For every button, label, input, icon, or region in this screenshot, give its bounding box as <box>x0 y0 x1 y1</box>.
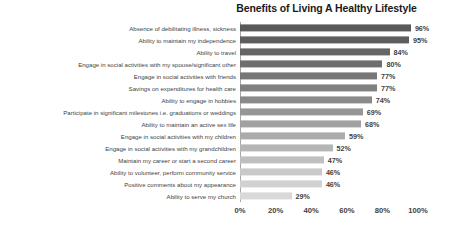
bar-row: Engage in social activities with friends… <box>0 70 458 82</box>
category-label: Positive comments about my appearance <box>124 180 236 187</box>
bar-row: Ability to volunteer, perform community … <box>0 166 458 178</box>
bar-value-label: 29% <box>296 191 310 200</box>
bar-value-label: 69% <box>367 107 381 116</box>
bar <box>240 144 333 151</box>
bar-value-label: 77% <box>381 83 395 92</box>
category-label: Engage in social activities with friends <box>134 72 236 79</box>
category-label: Engage in social activities with my gran… <box>105 144 236 151</box>
bar-value-label: 74% <box>376 95 390 104</box>
plot-area: Absence of debilitating illness, sicknes… <box>0 22 458 202</box>
bar-row: Savings on expenditures for health care7… <box>0 82 458 94</box>
bar-row: Ability to engage in hobbies74% <box>0 94 458 106</box>
bar <box>240 132 345 139</box>
bar-value-label: 59% <box>349 131 363 140</box>
bar-row: Positive comments about my appearance46% <box>0 178 458 190</box>
bar <box>240 48 390 55</box>
bar-row: Ability to maintain my independence95% <box>0 34 458 46</box>
bar <box>240 156 324 163</box>
x-axis: 0%20%40%60%80%100% <box>0 202 458 224</box>
x-axis-tick-label: 100% <box>408 206 427 215</box>
x-axis-tick-label: 40% <box>304 206 319 215</box>
bar-value-label: 46% <box>326 167 340 176</box>
category-label: Maintain my career or start a second car… <box>118 156 236 163</box>
bar-row: Maintain my career or start a second car… <box>0 154 458 166</box>
bar-row: Ability to travel84% <box>0 46 458 58</box>
bar <box>240 84 377 91</box>
bar <box>240 108 363 115</box>
category-label: Ability to maintain an active sex life <box>142 120 237 127</box>
category-label: Participate in significant milestones i.… <box>63 108 236 115</box>
bar-value-label: 77% <box>381 71 395 80</box>
category-label: Ability to volunteer, perform community … <box>110 168 236 175</box>
bar-row: Engage in social activities with my gran… <box>0 142 458 154</box>
chart-title: Benefits of Living A Healthy Lifestyle <box>195 2 458 14</box>
bar <box>240 180 322 187</box>
bar <box>240 96 372 103</box>
bar <box>240 120 361 127</box>
category-label: Engage in social activities with my spou… <box>78 60 236 67</box>
bar-row: Participate in significant milestones i.… <box>0 106 458 118</box>
bar-value-label: 95% <box>413 35 427 44</box>
bar <box>240 168 322 175</box>
x-axis-tick-label: 0% <box>235 206 246 215</box>
x-axis-tick-label: 80% <box>375 206 390 215</box>
bar <box>240 24 411 31</box>
bar-row: Ability to maintain an active sex life68… <box>0 118 458 130</box>
category-label: Ability to maintain my independence <box>138 36 236 43</box>
bar-chart: Benefits of Living A Healthy Lifestyle A… <box>0 0 458 234</box>
x-axis-tick-label: 20% <box>268 206 283 215</box>
bar <box>240 36 409 43</box>
category-label: Engage in social activities with my chil… <box>121 132 236 139</box>
bar-value-label: 52% <box>337 143 351 152</box>
bar-row: Engage in social activities with my chil… <box>0 130 458 142</box>
bar-value-label: 96% <box>415 23 429 32</box>
category-label: Ability to serve my church <box>167 192 236 199</box>
bar <box>240 192 292 199</box>
category-label: Absence of debilitating illness, sicknes… <box>129 24 236 31</box>
bar-value-label: 80% <box>386 59 400 68</box>
bar-row: Ability to serve my church29% <box>0 190 458 202</box>
bar-row: Absence of debilitating illness, sicknes… <box>0 22 458 34</box>
x-axis-tick-label: 60% <box>339 206 354 215</box>
bar-value-label: 68% <box>365 119 379 128</box>
bar-value-label: 47% <box>328 155 342 164</box>
bar-value-label: 46% <box>326 179 340 188</box>
bar <box>240 60 382 67</box>
category-label: Ability to engage in hobbies <box>161 96 236 103</box>
category-label: Ability to travel <box>196 48 236 55</box>
category-label: Savings on expenditures for health care <box>129 84 236 91</box>
bar-row: Engage in social activities with my spou… <box>0 58 458 70</box>
bar-value-label: 84% <box>394 47 408 56</box>
bar <box>240 72 377 79</box>
